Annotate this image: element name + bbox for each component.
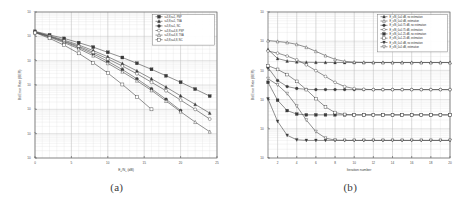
x-axis-ticks: 0510152025 (34, 156, 219, 165)
data-point-marker (91, 46, 94, 49)
svg-text:15: 15 (142, 161, 146, 165)
data-point-marker (208, 95, 211, 98)
svg-text:0: 0 (34, 10, 36, 12)
data-point-marker (135, 62, 138, 65)
svg-text:20: 20 (449, 161, 453, 165)
axis-tick-label: 100 (261, 10, 269, 15)
svg-text:10: 10 (261, 127, 265, 131)
data-point-marker (135, 69, 138, 72)
data-point-marker (150, 81, 153, 84)
data-point-marker (411, 113, 414, 116)
data-point-marker (420, 88, 423, 91)
data-point-marker (193, 108, 196, 111)
data-point-marker (324, 113, 327, 116)
svg-text:18: 18 (429, 161, 433, 165)
svg-text:10: 10 (261, 10, 265, 14)
data-point-marker (324, 75, 327, 78)
svg-text:25: 25 (215, 161, 219, 165)
legend-marker (383, 24, 386, 27)
svg-text:0: 0 (267, 10, 269, 12)
svg-text:20: 20 (179, 161, 183, 165)
svg-text:10: 10 (261, 39, 265, 43)
subfigure-b: 10010-110-210-310-410-52468101214161820I… (234, 0, 467, 209)
svg-text:6: 6 (315, 161, 317, 165)
data-series (267, 81, 452, 116)
data-point-marker (343, 85, 346, 88)
svg-text:Bit Error Rate (BER): Bit Error Rate (BER) (18, 70, 22, 101)
data-point-marker (343, 113, 346, 116)
svg-text:Bit Error Rate (BER): Bit Error Rate (BER) (251, 70, 255, 101)
data-point-marker (296, 80, 299, 83)
data-point-marker (276, 52, 279, 55)
data-point-marker (411, 88, 414, 91)
data-point-marker (430, 113, 433, 116)
svg-text:16: 16 (410, 161, 414, 165)
data-point-marker (296, 58, 299, 61)
legend-label: E_s/N_0=0 dB, estimation (390, 19, 420, 23)
data-point-marker (391, 113, 394, 116)
chart-b: 10010-110-210-310-410-52468101214161820I… (244, 2, 456, 184)
data-point-marker (382, 88, 385, 91)
svg-text:10: 10 (27, 132, 31, 136)
data-point-marker (193, 103, 196, 106)
legend-label: E_s/N_0=0 dB, no estimation (390, 15, 424, 19)
svg-text:10: 10 (261, 156, 265, 160)
legend-label: E_s/N_0=0.75 dB, no estimation (390, 23, 427, 27)
legend-label: r=3,8,s=4,8, NC (164, 38, 182, 42)
legend-marker (157, 29, 160, 32)
data-point-marker (267, 81, 270, 84)
data-point-marker (106, 72, 109, 75)
data-point-marker (135, 95, 138, 98)
x-axis-label: Iteration number (347, 168, 373, 172)
legend-label: E_s/N_0=0.75 dB, estimation (390, 28, 424, 32)
data-point-marker (286, 109, 289, 112)
data-point-marker (150, 68, 153, 71)
data-point-marker (62, 44, 65, 47)
x-axis-ticks: 2468101214161820 (277, 156, 452, 165)
legend-marker (157, 38, 160, 41)
svg-text:10: 10 (27, 10, 31, 14)
data-point-marker (430, 88, 433, 91)
data-point-marker (150, 108, 153, 111)
data-point-marker (334, 81, 337, 84)
data-point-marker (286, 55, 289, 58)
svg-text:-4: -4 (267, 126, 270, 128)
svg-text:-3: -3 (34, 83, 37, 85)
x-axis-label: Eb/N0 (dB) (118, 168, 134, 172)
data-point-marker (121, 56, 124, 59)
svg-text:10: 10 (27, 59, 31, 63)
data-point-marker (420, 113, 423, 116)
data-point-marker (179, 81, 182, 84)
data-series (267, 77, 452, 142)
svg-text:2: 2 (277, 161, 279, 165)
data-series-group (267, 39, 452, 142)
data-point-marker (267, 50, 270, 53)
plot-b-wrapper: 10010-110-210-310-410-52468101214161820I… (244, 2, 456, 184)
svg-text:10: 10 (27, 83, 31, 87)
data-point-marker (401, 88, 404, 91)
subfigure-a: 10010-110-210-310-410-510-60510152025Eb/… (0, 0, 234, 209)
data-series (267, 66, 452, 91)
legend-item: r=3,8,s=1, PSP (155, 15, 182, 19)
data-point-marker (305, 113, 308, 116)
svg-text:10: 10 (27, 156, 31, 160)
legend: E_s/N_0=0 dB, no estimationE_s/N_0=0 dB,… (378, 15, 448, 52)
svg-text:10: 10 (261, 69, 265, 73)
data-point-marker (382, 113, 385, 116)
data-point-marker (164, 85, 167, 88)
data-point-marker (372, 113, 375, 116)
data-point-marker (121, 83, 124, 86)
svg-text:Eb/N0 (dB): Eb/N0 (dB) (118, 168, 134, 172)
legend-label: E_s/N_0=1.25 dB, no estimation (390, 32, 427, 36)
data-point-marker (77, 52, 80, 55)
data-point-marker (343, 88, 346, 91)
plot-a-wrapper: 10010-110-210-310-410-510-60510152025Eb/… (11, 2, 223, 184)
y-axis-label: Bit Error Rate (BER) (18, 70, 22, 101)
data-point-marker (324, 106, 327, 109)
data-point-marker (315, 69, 318, 72)
data-point-marker (208, 118, 211, 121)
axis-tick-label: 100 (27, 10, 35, 15)
svg-text:10: 10 (261, 98, 265, 102)
data-point-marker (164, 74, 167, 77)
data-point-marker (334, 88, 337, 91)
